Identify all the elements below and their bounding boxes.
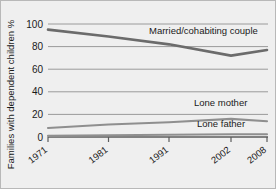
y-tick-label: 0 [37,132,43,143]
series-line [48,134,267,136]
x-axis-tick-labels: 19711981199120022008 [26,144,268,166]
y-tick-label: 40 [32,86,44,97]
y-tick-label: 80 [32,41,44,52]
series-label: Lone mother [194,97,247,108]
y-axis-title: Families with dependent children % [5,19,16,169]
x-tick-label: 1981 [86,144,109,166]
series-label: Lone father [197,118,245,129]
x-tick-label: 2002 [209,144,232,166]
y-tick-label: 60 [32,64,44,75]
x-tick-label: 2008 [245,144,268,166]
chart-frame: 020406080100 19711981199120022008 Marrie… [0,0,276,189]
y-tick-label: 100 [26,19,43,30]
x-tick-label: 1991 [147,144,170,166]
series-labels: Married/cohabiting coupleLone motherLone… [149,25,258,129]
y-axis-tick-labels: 020406080100 [26,19,43,143]
y-axis-title-text: Families with dependent children % [5,19,16,169]
x-tick-label: 1971 [26,144,49,166]
line-chart: 020406080100 19711981199120022008 Marrie… [1,1,276,189]
series-label: Married/cohabiting couple [149,25,258,36]
y-tick-label: 20 [32,109,44,120]
